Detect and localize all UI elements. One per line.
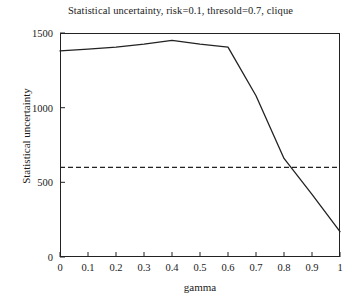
x-tick-0.6: 0.6 (221, 262, 234, 273)
y-tick-500: 500 (37, 177, 53, 188)
x-tick-0.1: 0.1 (81, 262, 94, 273)
x-tick-0: 0 (57, 262, 62, 273)
chart-title: Statistical uncertainty, risk=0.1, thres… (0, 5, 361, 16)
x-axis-ticks (60, 252, 340, 257)
x-tick-0.5: 0.5 (193, 262, 206, 273)
plot-area (60, 33, 340, 257)
y-tick-0: 0 (48, 252, 53, 263)
statistical-uncertainty-curve (60, 40, 340, 231)
x-axis-tick-labels: 0 0.1 0.2 0.3 0.4 0.5 0.6 0.7 0.8 0.9 1 (60, 262, 340, 276)
x-tick-0.9: 0.9 (305, 262, 318, 273)
x-tick-0.4: 0.4 (165, 262, 178, 273)
chart-figure: Statistical uncertainty, risk=0.1, thres… (0, 0, 361, 307)
y-axis-ticks (60, 33, 65, 257)
x-tick-0.7: 0.7 (249, 262, 262, 273)
y-axis-label: Statistical uncertainty (20, 56, 32, 216)
x-tick-0.3: 0.3 (137, 262, 150, 273)
y-tick-1000: 1000 (32, 102, 53, 113)
x-tick-0.8: 0.8 (277, 262, 290, 273)
y-tick-1500: 1500 (32, 28, 53, 39)
x-tick-0.2: 0.2 (109, 262, 122, 273)
plot-canvas (60, 33, 340, 257)
x-tick-1: 1 (337, 262, 342, 273)
x-axis-label: gamma (60, 281, 340, 293)
